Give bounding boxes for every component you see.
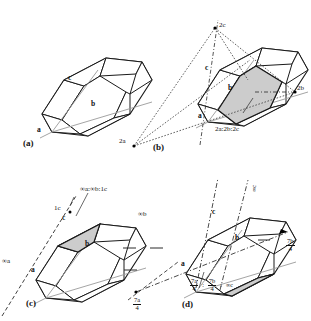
panel-b-crystal [196,48,308,128]
fraction-7b-4: 7b 4 [208,278,217,293]
panel-b-intercept-2b-label: 2b [297,85,304,92]
ratio-colon-2: : [220,282,222,288]
panel-c-crystal [34,224,146,304]
panel-c-axis-b-label: b [85,240,89,248]
panel-a-axis-c-label: c [68,74,71,82]
panel-d-label: (d) [182,300,193,309]
fraction-denominator: 4 [208,285,217,293]
ratio-colon-1: : [202,282,204,288]
panel-d-axis-a-label: a [181,260,185,268]
fraction-numerator: 7b [208,278,217,285]
panel-a-crystal [40,58,152,138]
panel-b-intercept-2a-label: 2a [119,138,126,145]
panel-c-intercept-infb-label: ∞b [138,211,147,218]
fraction-numerator: 7a [133,297,141,304]
fraction-7a-4: 7a 4 [190,278,198,293]
panel-d-axis-c-label: c [212,208,215,216]
panel-c-label: (c) [26,299,36,308]
fraction-7b-4: 7b 4 [286,238,295,253]
panel-c-parameter-ratio-label: ∞a:∞b:1c [80,186,107,193]
panel-b-parameter-ratio-label: 2a:2b:2c [215,126,239,133]
panel-a-axis-b-label: b [91,100,95,108]
fraction-numerator: 7b [286,238,295,245]
panel-b-axis-b-label: b [228,84,232,92]
fraction-7a-4: 7a 4 [133,297,141,312]
fraction-denominator: 4 [190,285,198,293]
panel-c-axis-c-label: c [62,214,65,222]
panel-b-axis-c-label: c [205,64,208,72]
panel-d-intercept-infc-bottom-label: ∞c [226,282,233,288]
panel-c-axis-a-label: a [31,266,35,274]
panel-d-intercept-7b-over-4: 7b 4 [286,236,295,253]
panel-a-label: (a) [23,139,34,148]
panel-d-intercept-infc-top-label: ∞c [251,185,257,192]
panel-b-axis-a-label: a [198,112,202,120]
panel-d-intercept-7a-over-4: 7a 4 [133,295,141,312]
panel-b-label: (b) [153,143,164,152]
panel-c-intercept-infa-label: ∞a [2,258,10,265]
fraction-denominator: 4 [133,304,141,312]
figure-canvas [0,0,311,321]
panel-c-intercept-1c-label: 1c [54,205,61,212]
panel-a-axis-a-label: a [37,126,41,134]
fraction-denominator: 4 [286,245,295,253]
fraction-numerator: 7a [190,278,198,285]
panel-d-axis-b-label: b [235,234,239,242]
panel-d-parameter-ratio-label: 7a 4 : 7b 4 : ∞c [190,276,233,293]
panel-b-intercept-2c-label: 2c [219,22,226,29]
